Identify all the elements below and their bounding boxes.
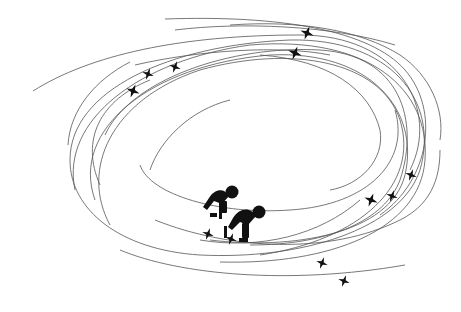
orbit-line [73,44,425,262]
sparkle-icon [314,255,329,270]
orbit-line [33,35,420,170]
sparkle-icon [403,167,418,182]
sparkle-icon [336,273,351,288]
orbit-line [140,110,398,211]
orbit-line [99,58,404,255]
sparkle-icon [140,66,155,81]
orbit-line [230,24,441,140]
sparkle-stars [124,24,419,289]
sparkle-icon [200,226,215,241]
orbit-line [68,62,130,145]
skater-icon-front [224,206,266,243]
sparkle-icon [362,191,380,209]
illustration-canvas [0,0,461,312]
skater-icon-back [203,186,239,220]
orbit-lines [33,18,441,275]
orbit-line [260,55,381,190]
orbit-line [150,100,230,170]
skating-illustration [0,0,461,312]
orbit-line [92,80,150,185]
orbit-line [155,150,440,244]
